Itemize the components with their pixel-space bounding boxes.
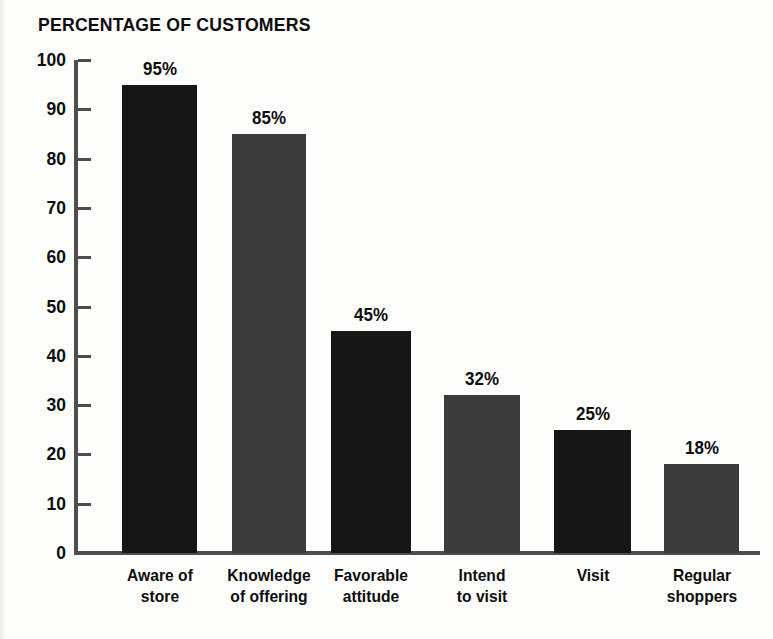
y-axis-tick	[78, 355, 91, 358]
bar-value-label: 32%	[444, 369, 519, 390]
y-axis-tick-label-text: 10	[27, 493, 66, 515]
y-axis-tick-label: 60	[14, 246, 66, 266]
y-axis-tick-label: 70	[14, 197, 66, 217]
x-axis-category-label-line: shoppers	[637, 586, 766, 607]
y-axis-tick-label: 20	[14, 443, 66, 463]
y-axis-tick-label-text: 40	[27, 345, 66, 367]
x-axis-category-label: Regularshoppers	[637, 565, 766, 607]
y-axis-tick	[78, 256, 91, 259]
x-axis-category-label-line: Intend	[418, 565, 547, 586]
y-axis-tick-label: 100	[14, 49, 66, 69]
y-axis-tick	[78, 453, 91, 456]
y-axis-tick-label: 10	[14, 493, 66, 513]
y-axis-tick	[78, 552, 91, 555]
y-axis-tick	[78, 158, 91, 161]
y-axis-tick-label-text: 90	[27, 98, 66, 120]
y-axis-tick-label: 90	[14, 98, 66, 118]
y-axis-tick	[78, 207, 91, 210]
x-axis-category-label: Favorableattitude	[307, 565, 436, 607]
y-axis-tick	[78, 306, 91, 309]
bar	[444, 395, 520, 553]
y-axis-tick	[78, 404, 91, 407]
x-axis-category-label-line: attitude	[307, 586, 436, 607]
bar-chart: PERCENTAGE OF CUSTOMERS 0102030405060708…	[0, 0, 773, 639]
x-axis-category-label-line: to visit	[418, 586, 547, 607]
bar-value-label: 25%	[555, 404, 630, 425]
bar-value-label: 85%	[231, 108, 306, 129]
y-axis-tick-label-text: 100	[27, 49, 66, 71]
y-axis-tick	[78, 503, 91, 506]
bar-value-label: 45%	[333, 305, 408, 326]
y-axis-tick	[78, 59, 91, 62]
y-axis-tick-label-text: 50	[27, 296, 66, 318]
bar	[331, 331, 411, 553]
bar-value-label: 18%	[664, 438, 739, 459]
y-axis-tick-label-text: 20	[27, 443, 66, 465]
bar	[664, 464, 739, 553]
plot-area: 0102030405060708090100 95%85%45%32%25%18…	[0, 0, 773, 639]
y-axis-tick	[78, 108, 91, 111]
x-axis-category-label-line: Regular	[637, 565, 766, 586]
y-axis-tick-label-text: 30	[27, 394, 66, 416]
y-axis-tick-label: 50	[14, 296, 66, 316]
y-axis-tick-label-text: 0	[27, 542, 66, 564]
x-axis-category-label-line: Favorable	[307, 565, 436, 586]
bar	[122, 85, 197, 553]
bar	[554, 430, 631, 553]
x-axis-category-label: Intendto visit	[418, 565, 547, 607]
y-axis-tick-label: 40	[14, 345, 66, 365]
bar-value-label: 95%	[122, 59, 197, 80]
y-axis-tick-label-text: 70	[27, 197, 66, 219]
y-axis-tick-label: 30	[14, 394, 66, 414]
bar	[232, 134, 306, 553]
y-axis-tick-label: 80	[14, 148, 66, 168]
y-axis-tick-label-text: 80	[27, 148, 66, 170]
y-axis-tick-label: 0	[14, 542, 66, 562]
y-axis-tick-label-text: 60	[27, 246, 66, 268]
